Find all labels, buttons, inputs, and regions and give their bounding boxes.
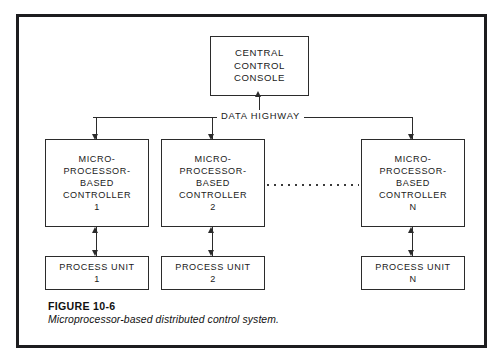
figure-caption: FIGURE 10-6 Microprocessor-based distrib…	[48, 300, 279, 325]
controller-2-index: 2	[210, 201, 216, 213]
dotted-continuation-line	[267, 184, 359, 186]
figure-caption-title: FIGURE 10-6	[48, 300, 279, 312]
process-unit-box-1: PROCESS UNIT 1	[45, 256, 149, 290]
controller-n-line-3: BASED	[396, 177, 430, 189]
controller-1-line-4: CONTROLLER	[63, 189, 131, 201]
controller-1-line-1: MICRO-	[79, 153, 116, 165]
console-line-2: CONTROL	[234, 60, 285, 73]
controller-box-2: MICRO- PROCESSOR- BASED CONTROLLER 2	[161, 139, 265, 227]
process-unit-box-n: PROCESS UNIT N	[361, 256, 465, 290]
arrow-up-icon-link-2	[208, 227, 214, 233]
controller-2-line-4: CONTROLLER	[179, 189, 247, 201]
controller-1-line-3: BASED	[80, 177, 114, 189]
process-unit-n-label: PROCESS UNIT	[375, 261, 450, 273]
arrow-up-icon-link-n	[408, 227, 414, 233]
controller-1-index: 1	[94, 201, 100, 213]
arrow-up-icon-link-1	[92, 227, 98, 233]
controller-box-1: MICRO- PROCESSOR- BASED CONTROLLER 1	[45, 139, 149, 227]
central-control-console-box: CENTRAL CONTROL CONSOLE	[210, 36, 309, 96]
controller-box-n: MICRO- PROCESSOR- BASED CONTROLLER N	[361, 139, 465, 227]
controller-2-line-2: PROCESSOR-	[179, 165, 246, 177]
console-line-1: CENTRAL	[235, 47, 284, 60]
controller-n-line-2: PROCESSOR-	[379, 165, 446, 177]
process-unit-1-index: 1	[94, 273, 100, 285]
process-unit-2-label: PROCESS UNIT	[175, 261, 250, 273]
process-unit-1-label: PROCESS UNIT	[59, 261, 134, 273]
process-unit-box-2: PROCESS UNIT 2	[161, 256, 265, 290]
console-line-3: CONSOLE	[234, 72, 285, 85]
controller-2-line-3: BASED	[196, 177, 230, 189]
data-highway-label: DATA HIGHWAY	[217, 110, 304, 121]
controller-n-line-4: CONTROLLER	[379, 189, 447, 201]
arrow-up-icon-console	[255, 91, 261, 97]
figure-frame: CENTRAL CONTROL CONSOLE DATA HIGHWAY MIC…	[16, 14, 487, 348]
controller-1-line-2: PROCESSOR-	[63, 165, 130, 177]
process-unit-2-index: 2	[210, 273, 216, 285]
figure-caption-subtitle: Microprocessor-based distributed control…	[48, 314, 279, 325]
controller-2-line-1: MICRO-	[195, 153, 232, 165]
process-unit-n-index: N	[409, 273, 416, 285]
controller-n-line-1: MICRO-	[395, 153, 432, 165]
controller-n-index: N	[409, 201, 416, 213]
